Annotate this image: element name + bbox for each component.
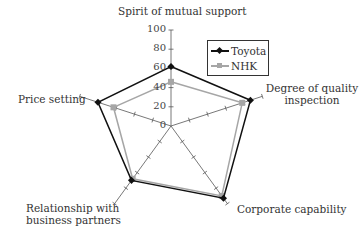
data-marker bbox=[167, 63, 174, 70]
radial-tick-label: 80 bbox=[146, 42, 166, 53]
legend-item-nhk: NHK bbox=[211, 59, 257, 73]
axis-tick bbox=[203, 171, 207, 174]
radial-tick-label: 100 bbox=[146, 23, 166, 34]
legend-swatch-toyota bbox=[211, 50, 229, 52]
data-marker bbox=[110, 104, 116, 110]
axis-tick bbox=[135, 171, 139, 174]
axis-tick bbox=[192, 156, 196, 159]
legend: Toyota NHK bbox=[207, 40, 269, 76]
data-marker bbox=[247, 97, 254, 104]
axis-tick bbox=[225, 202, 229, 205]
radial-tick-label: 0 bbox=[146, 119, 166, 130]
axis-label-1: Degree of qualityinspection bbox=[262, 82, 362, 106]
legend-swatch-nhk bbox=[211, 65, 229, 67]
axis-tick bbox=[180, 140, 184, 143]
data-marker bbox=[239, 100, 245, 106]
axis-tick bbox=[146, 156, 150, 159]
legend-item-toyota: Toyota bbox=[211, 44, 266, 58]
axis-label-3: Relationship withbusiness partners bbox=[26, 202, 136, 226]
radar-chart bbox=[0, 0, 363, 231]
axis-label-0: Spirit of mutual support bbox=[118, 5, 244, 17]
axis-tick bbox=[158, 140, 162, 143]
data-marker bbox=[168, 79, 174, 85]
radial-tick-label: 40 bbox=[146, 81, 166, 92]
axis-label-2: Corporate capability bbox=[237, 203, 357, 215]
radar-series bbox=[94, 63, 254, 202]
axis-label-4: Price setting bbox=[18, 93, 98, 105]
radial-tick-label: 20 bbox=[146, 100, 166, 111]
legend-label-nhk: NHK bbox=[231, 60, 257, 72]
axis-tick bbox=[214, 187, 218, 190]
radial-tick-label: 60 bbox=[146, 61, 166, 72]
legend-label-toyota: Toyota bbox=[231, 45, 266, 57]
axis-line bbox=[115, 126, 171, 204]
axis-tick bbox=[124, 187, 128, 190]
